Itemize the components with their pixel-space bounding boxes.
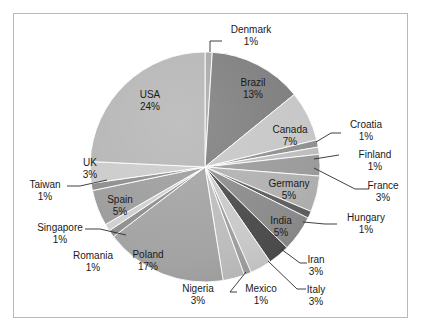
- slice-label-name: Spain: [107, 194, 133, 205]
- slice-label-name: France: [367, 180, 399, 191]
- slice-label-hungary: Hungary1%: [347, 212, 385, 235]
- leader-line-croatia: [316, 133, 341, 142]
- slice-label-croatia: Croatia1%: [350, 119, 383, 142]
- slice-label-name: Singapore: [37, 222, 83, 233]
- slice-label-mexico: Mexico1%: [245, 283, 277, 306]
- slice-label-value: 3%: [309, 296, 324, 307]
- slice-label-value: 1%: [359, 131, 374, 142]
- slice-label-name: India: [270, 215, 292, 226]
- leader-line-france: [314, 168, 369, 189]
- slice-label-value: 1%: [254, 295, 269, 306]
- slice-label-uk: UK3%: [83, 157, 98, 180]
- slice-label-iran: Iran3%: [307, 254, 324, 277]
- leader-line-iran: [281, 249, 307, 263]
- slice-label-value: 1%: [359, 224, 374, 235]
- slice-label-value: 1%: [368, 161, 383, 172]
- pie-chart[interactable]: Denmark1%Brazil13%Canada7%Croatia1%Finla…: [0, 0, 423, 336]
- pie-slices[interactable]: [90, 52, 320, 282]
- leader-line-hungary: [303, 222, 337, 224]
- slice-label-value: 1%: [53, 234, 68, 245]
- leader-line-denmark: [210, 41, 222, 52]
- slice-label-name: Italy: [307, 284, 325, 295]
- slice-label-name: Brazil: [240, 77, 265, 88]
- slice-label-nigeria: Nigeria3%: [182, 283, 214, 306]
- slice-label-denmark: Denmark1%: [231, 24, 273, 47]
- slice-label-value: 5%: [274, 227, 289, 238]
- slice-label-name: Nigeria: [182, 283, 214, 294]
- slice-label-value: 3%: [83, 169, 98, 180]
- slice-label-name: Iran: [307, 254, 324, 265]
- slice-label-value: 17%: [138, 261, 158, 272]
- slice-label-value: 1%: [86, 262, 101, 273]
- slice-label-value: 1%: [38, 191, 53, 202]
- slice-label-name: Germany: [268, 178, 309, 189]
- slice-label-italy: Italy3%: [307, 284, 325, 307]
- slice-label-name: Hungary: [347, 212, 385, 223]
- slice-label-finland: Finland1%: [359, 149, 392, 172]
- slice-label-name: Finland: [359, 149, 392, 160]
- slice-label-name: UK: [83, 157, 97, 168]
- slice-label-value: 1%: [244, 36, 259, 47]
- slice-label-name: Croatia: [350, 119, 383, 130]
- slice-label-name: Romania: [73, 250, 113, 261]
- slice-label-name: Canada: [272, 124, 307, 135]
- slice-label-value: 7%: [283, 136, 298, 147]
- slice-label-taiwan: Taiwan1%: [29, 179, 60, 202]
- slice-label-name: USA: [140, 89, 161, 100]
- slice-label-value: 5%: [113, 206, 128, 217]
- slice-label-value: 3%: [191, 295, 206, 306]
- slice-label-name: Denmark: [231, 24, 273, 35]
- slice-label-value: 24%: [140, 101, 160, 112]
- slice-label-france: France3%: [367, 180, 399, 203]
- slice-label-name: Poland: [132, 249, 163, 260]
- slice-label-singapore: Singapore1%: [37, 222, 83, 245]
- slice-label-value: 3%: [376, 192, 391, 203]
- slice-label-usa: USA24%: [140, 89, 161, 112]
- slice-label-name: Mexico: [245, 283, 277, 294]
- slice-label-value: 13%: [243, 89, 263, 100]
- slice-label-romania: Romania1%: [73, 250, 113, 273]
- chart-figure: Denmark1%Brazil13%Canada7%Croatia1%Finla…: [0, 0, 423, 336]
- slice-label-value: 5%: [282, 190, 297, 201]
- slice-label-brazil: Brazil13%: [240, 77, 265, 100]
- slice-label-name: Taiwan: [29, 179, 60, 190]
- slice-label-value: 3%: [309, 266, 324, 277]
